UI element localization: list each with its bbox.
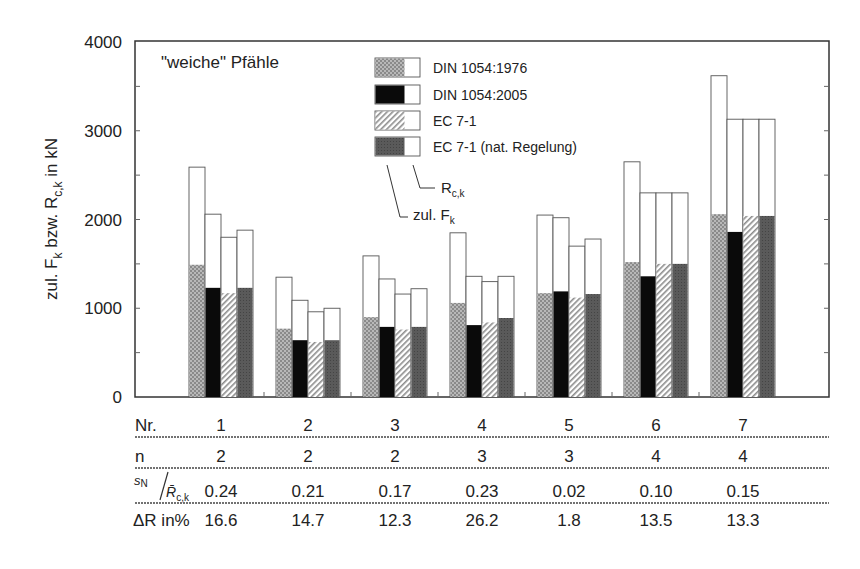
bar-zul-fk (206, 288, 221, 397)
bar-zul-fk (325, 340, 340, 397)
table-cell: 2 (303, 416, 312, 435)
bar-group-6 (624, 162, 688, 397)
bar-group-3 (363, 256, 427, 397)
bar-zul-fk (538, 293, 553, 397)
legend-label: EC 7-1 (nat. Regelung) (433, 139, 577, 155)
bar-group-5 (537, 215, 601, 397)
table-cell: 0.24 (204, 482, 237, 501)
legend-item: DIN 1054:1976 (375, 58, 527, 77)
table-cell: 16.6 (204, 511, 237, 530)
bar-group-1 (189, 167, 253, 397)
table-cell: 3 (390, 416, 399, 435)
bar-chart: 01000200030004000 zul. Fk bzw. Rc,k in k… (0, 0, 860, 569)
y-tick-label: 4000 (84, 33, 122, 52)
legend-label: DIN 1054:2005 (433, 87, 527, 103)
table-cell: 1.8 (557, 511, 581, 530)
bar-zul-fk (380, 327, 395, 397)
leader-rck (413, 165, 435, 188)
bar-zul-fk (412, 327, 427, 397)
bar-zul-fk (222, 293, 237, 397)
bar-zul-fk (673, 264, 688, 397)
bar-zul-fk (570, 298, 585, 397)
y-tick-label: 0 (113, 388, 122, 407)
bar-zul-fk (293, 340, 308, 397)
table-cell: 2 (303, 447, 312, 466)
table-cell: 4 (651, 447, 660, 466)
bars (189, 76, 775, 397)
data-table: Nr. n sN R̄c,k ΔR in% 123456722233440.24… (133, 416, 829, 530)
table-cell: 2 (390, 447, 399, 466)
table-cell: 2 (216, 447, 225, 466)
y-tick-label: 1000 (84, 299, 122, 318)
bar-zul-fk (190, 265, 205, 397)
bar-zul-fk (554, 291, 569, 397)
bar-zul-fk (760, 216, 775, 397)
bar-zul-fk (625, 262, 640, 397)
table-cell: 6 (651, 416, 660, 435)
y-axis-label: zul. Fk bzw. Rc,k in kN (42, 138, 65, 300)
bar-group-4 (450, 233, 514, 397)
bar-group-2 (276, 277, 340, 397)
row-label-sn: sN (134, 473, 148, 489)
y-tick-label: 2000 (84, 211, 122, 230)
table-cell: 14.7 (291, 511, 324, 530)
table-cell: 12.3 (378, 511, 411, 530)
annotation-zul-fk: zul. Fk (413, 206, 456, 226)
row-label-nr: Nr. (135, 416, 157, 435)
legend-label: EC 7-1 (433, 113, 477, 129)
bar-zul-fk (499, 318, 514, 397)
bar-zul-fk (364, 317, 379, 397)
bar-zul-fk (712, 214, 727, 397)
bar-zul-fk (744, 216, 759, 397)
table-cell: 3 (477, 447, 486, 466)
bar-zul-fk (586, 294, 601, 397)
table-cell: 3 (564, 447, 573, 466)
table-cell: 1 (216, 416, 225, 435)
bar-zul-fk (396, 330, 411, 397)
bar-zul-fk (309, 342, 324, 397)
bar-group-7 (711, 76, 775, 397)
bar-zul-fk (657, 264, 672, 397)
annotation-rck: Rc,k (441, 179, 466, 199)
table-cell: 0.21 (291, 482, 324, 501)
table-cell: 0.23 (465, 482, 498, 501)
table-cell: 7 (738, 416, 747, 435)
table-cell: 0.02 (552, 482, 585, 501)
table-cell: 13.5 (639, 511, 672, 530)
bar-zul-fk (483, 322, 498, 397)
bar-zul-fk (451, 303, 466, 397)
legend-item: EC 7-1 (nat. Regelung) (375, 137, 577, 156)
table-cell: 26.2 (465, 511, 498, 530)
row-label-n: n (135, 447, 144, 466)
row-label-dr: ΔR in% (133, 511, 190, 530)
legend: DIN 1054:1976DIN 1054:2005EC 7-1EC 7-1 (… (375, 58, 577, 156)
bar-zul-fk (641, 276, 656, 397)
bar-zul-fk (238, 288, 253, 397)
table-cell: 5 (564, 416, 573, 435)
table-cell: 13.3 (726, 511, 759, 530)
bar-zul-fk (277, 329, 292, 397)
legend-item: EC 7-1 (375, 111, 477, 130)
leader-zul-fk (387, 165, 408, 217)
legend-item: DIN 1054:2005 (375, 85, 527, 104)
table-cell: 0.15 (726, 482, 759, 501)
table-cell: 4 (477, 416, 486, 435)
chart-title: "weiche" Pfähle (161, 53, 279, 72)
table-cell: 0.10 (639, 482, 672, 501)
bar-zul-fk (728, 232, 743, 397)
legend-label: DIN 1054:1976 (433, 60, 527, 76)
table-cell: 4 (738, 447, 747, 466)
bar-zul-fk (467, 325, 482, 397)
y-tick-label: 3000 (84, 122, 122, 141)
table-cell: 0.17 (378, 482, 411, 501)
row-label-rck: R̄c,k (166, 484, 190, 503)
